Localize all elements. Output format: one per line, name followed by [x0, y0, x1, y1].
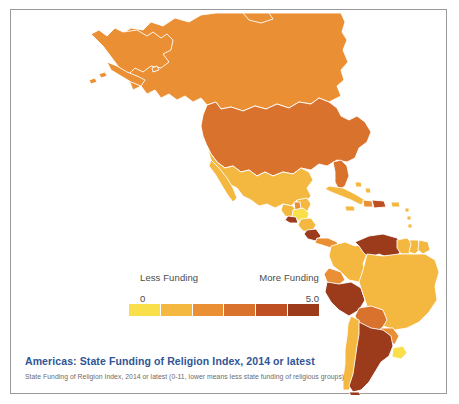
legend-high-label: More Funding	[259, 272, 319, 283]
country-el-salvador[interactable]	[285, 216, 298, 223]
legend-swatch-3[interactable]	[193, 304, 225, 316]
region-florida[interactable]	[333, 160, 349, 190]
legend-swatch-5[interactable]	[256, 304, 288, 316]
legend-captions: Less Funding More Funding	[129, 272, 319, 286]
legend-low-label: Less Funding	[140, 272, 198, 283]
legend-swatch-4[interactable]	[224, 304, 256, 316]
bahamas[interactable]	[355, 182, 371, 193]
legend-color-bar[interactable]	[129, 304, 319, 316]
country-cuba[interactable]	[325, 186, 365, 205]
legend-swatch-1[interactable]	[129, 304, 161, 316]
country-french-guiana[interactable]	[418, 240, 430, 254]
map-screenshot: Less Funding More Funding 0 5.0 Americas…	[0, 0, 459, 404]
map-canvas[interactable]	[11, 10, 448, 395]
country-jamaica[interactable]	[345, 206, 355, 211]
alaska-island-1[interactable]	[99, 72, 107, 78]
country-dominican-republic[interactable]	[372, 200, 386, 208]
lesser-antilles[interactable]	[405, 208, 412, 228]
map-frame: Less Funding More Funding 0 5.0 Americas…	[10, 9, 447, 394]
country-haiti[interactable]	[363, 200, 373, 207]
country-puerto-rico[interactable]	[391, 202, 400, 207]
legend-low-value: 0	[140, 293, 145, 304]
americas-choropleth-svg[interactable]	[11, 10, 448, 395]
legend-swatch-2[interactable]	[161, 304, 193, 316]
chart-title: Americas: State Funding of Religion Inde…	[25, 355, 435, 367]
region-tierra-del-fuego[interactable]	[349, 392, 361, 395]
chart-subtitle: State Funding of Religion Index, 2014 or…	[25, 373, 435, 380]
map-legend: Less Funding More Funding 0 5.0	[129, 272, 319, 316]
alaska-island-2[interactable]	[89, 78, 97, 84]
legend-high-value: 5.0	[306, 293, 319, 304]
legend-swatch-6[interactable]	[288, 304, 319, 316]
legend-values: 0 5.0	[129, 291, 319, 304]
caption-block: Americas: State Funding of Religion Inde…	[25, 355, 435, 380]
